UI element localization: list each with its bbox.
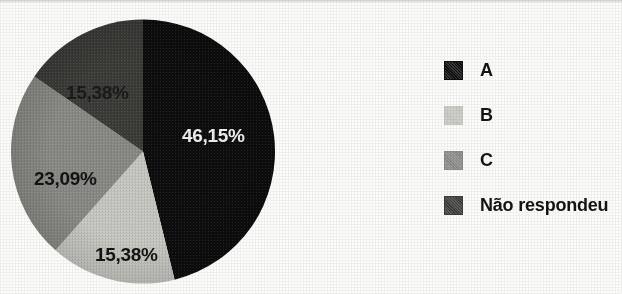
pie-label-c: 23,09% [34, 168, 97, 189]
legend-swatch-b [444, 106, 463, 125]
pie-label-b: 15,38% [95, 244, 158, 265]
scan-edge-artifact [0, 0, 622, 3]
legend-swatch-nao-respondeu [444, 196, 463, 215]
pie-label-nao-respondeu: 15,38% [66, 82, 129, 103]
legend-swatch-c [444, 151, 463, 170]
legend-item-nao-respondeu: Não respondeu [444, 197, 616, 213]
pie-chart-svg: 46,15% 15,38% 23,09% 15,38% [10, 18, 276, 285]
legend-label-b: B [480, 106, 493, 124]
legend-item-a: A [444, 62, 616, 78]
legend-swatch-a [444, 61, 463, 80]
pie-label-a: 46,15% [182, 125, 245, 146]
pie-chart: 46,15% 15,38% 23,09% 15,38% [10, 18, 276, 285]
chart-legend: A B C Não respondeu [444, 62, 616, 213]
legend-label-a: A [480, 61, 493, 79]
legend-label-nao-respondeu: Não respondeu [480, 196, 608, 214]
legend-item-c: C [444, 152, 616, 168]
legend-label-c: C [480, 151, 493, 169]
legend-item-b: B [444, 107, 616, 123]
pie-chart-figure: 46,15% 15,38% 23,09% 15,38% A B C Não re… [0, 0, 622, 294]
